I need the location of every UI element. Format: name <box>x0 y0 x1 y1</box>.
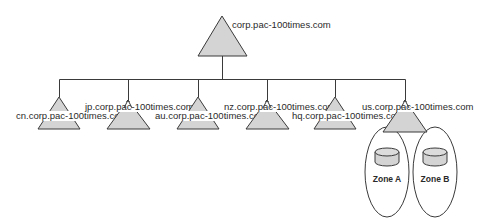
database-cylinder-icon <box>375 148 399 166</box>
domain-tree-diagram: corp.pac-100times.com cn.corp.pac-100tim… <box>0 0 477 219</box>
connector-lines <box>60 56 406 100</box>
zone-b <box>413 127 457 217</box>
child-domain-label: us.corp.pac-100times.com <box>362 101 473 112</box>
zone-a <box>365 127 409 217</box>
database-cylinder-icon <box>423 148 447 166</box>
zone-b-content: Zone B <box>421 148 450 184</box>
root-domain-node: corp.pac-100times.com <box>198 16 331 56</box>
zone-label: Zone A <box>373 174 402 184</box>
zone-a-content: Zone A <box>373 148 402 184</box>
zone-label: Zone B <box>421 174 450 184</box>
root-domain-label: corp.pac-100times.com <box>232 19 331 30</box>
